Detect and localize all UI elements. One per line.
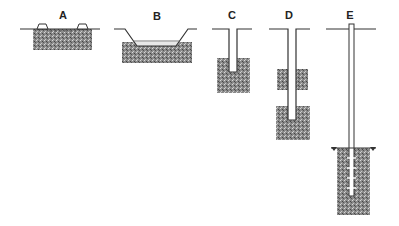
label-a: A: [59, 10, 67, 21]
panel-c: [212, 29, 252, 93]
label-d: D: [285, 10, 293, 21]
panel-e: [326, 24, 376, 215]
water-table-marker-right: [370, 147, 376, 151]
berm-left: [37, 24, 48, 29]
water-table-marker-left: [331, 147, 337, 151]
label-b: B: [153, 11, 161, 22]
berm-right: [77, 24, 88, 29]
diagram-canvas: [0, 0, 399, 226]
panel-a: [20, 24, 100, 50]
label-c: C: [228, 10, 236, 21]
panel-b: [114, 29, 197, 63]
panel-d: [269, 29, 310, 140]
aquifer-a: [33, 29, 92, 50]
tube-well-pipe: [349, 24, 354, 196]
label-e: E: [346, 10, 353, 21]
